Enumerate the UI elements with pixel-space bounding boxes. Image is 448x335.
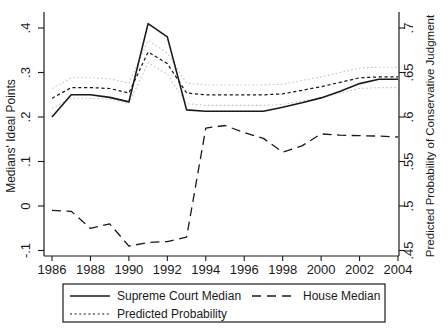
right-axis-tick-label: .7 [401, 23, 416, 34]
series-line-supreme-court-median [52, 24, 398, 117]
series-line-house-median [52, 126, 398, 247]
chart-figure: -.10.1.2.3.4.45.5.55.6.65.71986198819901… [0, 0, 448, 335]
left-axis-tick-label: -.1 [18, 243, 33, 258]
right-axis-tick-label: .6 [401, 112, 416, 123]
x-axis-tick-label: 1990 [114, 262, 143, 277]
right-axis-title: Predicted Probability of Conservative Ju… [424, 14, 436, 257]
x-axis-tick-label: 1994 [191, 262, 220, 277]
x-axis-tick-label: 1988 [76, 262, 105, 277]
x-axis-tick-label: 2002 [345, 262, 374, 277]
right-axis-tick-label: .65 [401, 63, 416, 81]
legend: Supreme Court Median House Median Predic… [63, 284, 385, 322]
left-axis-tick-label: 0 [18, 202, 33, 209]
legend-label-house-median: House Median [303, 289, 380, 303]
legend-label-supreme-court-median: Supreme Court Median [117, 289, 241, 303]
x-axis-tick-label: 2004 [384, 262, 413, 277]
left-axis-tick-label: .2 [18, 112, 33, 123]
x-axis-tick-label: 1996 [230, 262, 259, 277]
right-axis-tick-label: .5 [401, 201, 416, 212]
legend-label-predicted-probability: Predicted Probability [117, 307, 227, 321]
right-axis-tick-label: .55 [401, 152, 416, 170]
left-axis-tick-label: .1 [18, 156, 33, 167]
left-axis-tick-label: .4 [18, 23, 33, 34]
plot-area: -.10.1.2.3.4.45.5.55.6.65.71986198819901… [18, 12, 416, 277]
left-axis-tick-label: .3 [18, 67, 33, 78]
x-axis-tick-label: 1986 [38, 262, 67, 277]
series-line-predicted-probability [52, 52, 398, 98]
x-axis-tick-label: 1992 [153, 262, 182, 277]
x-axis-tick-label: 1998 [268, 262, 297, 277]
right-axis-tick-label: .45 [401, 241, 416, 259]
dual-axis-line-chart: -.10.1.2.3.4.45.5.55.6.65.71986198819901… [0, 0, 448, 335]
left-axis-title: Medians' Ideal Points [4, 79, 18, 193]
x-axis-tick-label: 2000 [307, 262, 336, 277]
